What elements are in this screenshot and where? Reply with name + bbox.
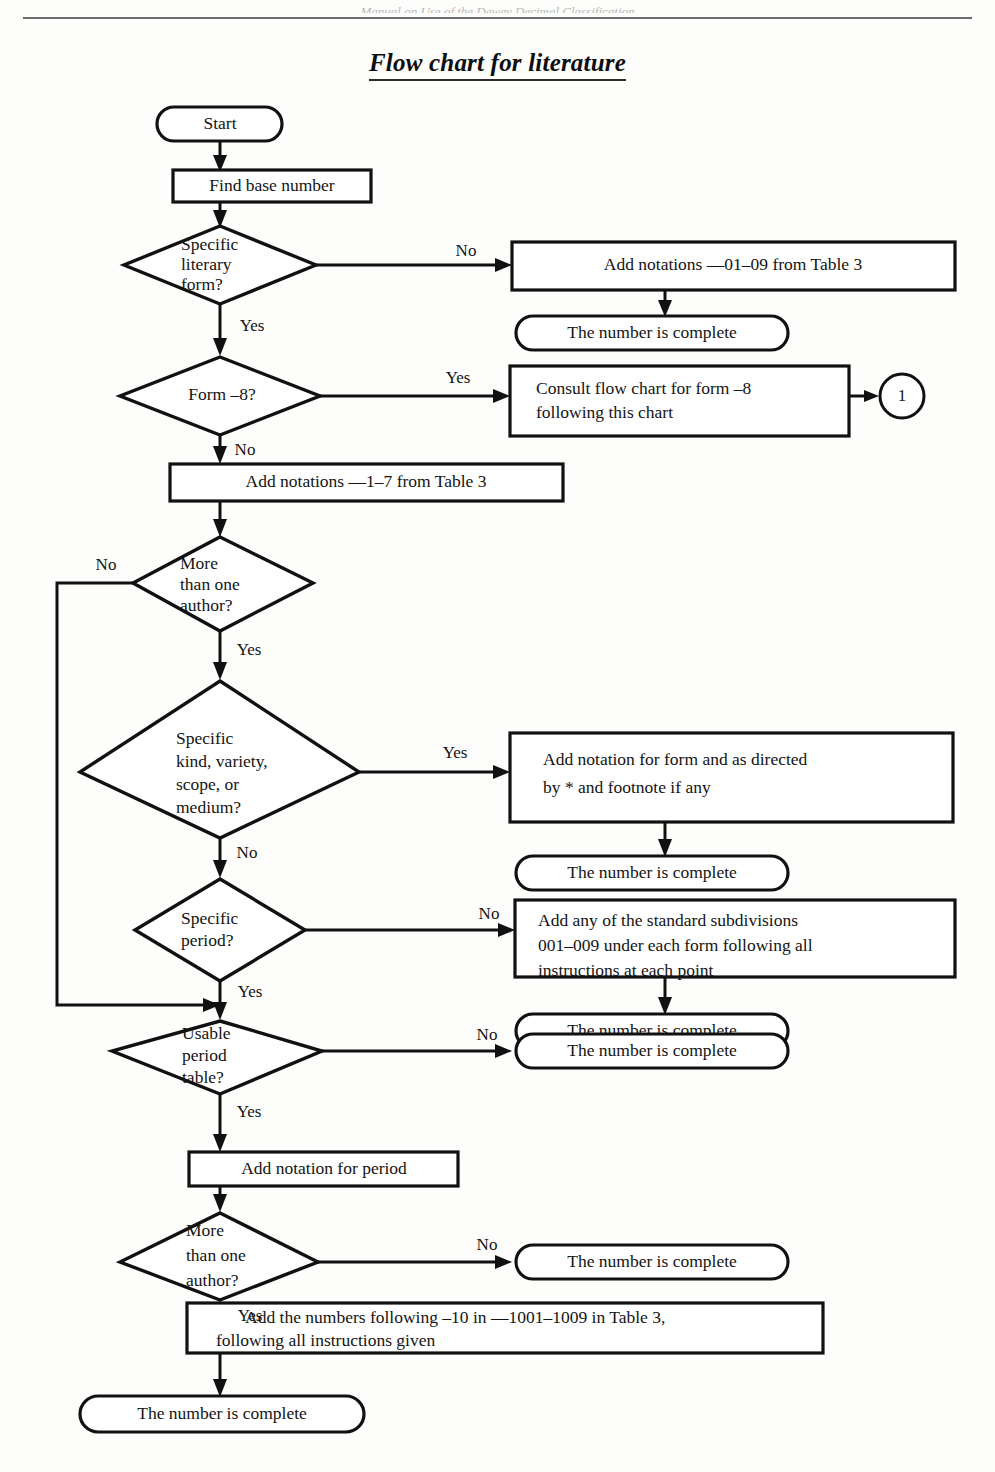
edge-consult-to-connector1 (849, 390, 879, 402)
node-connector-1[interactable]: 1 (880, 374, 924, 418)
node-more-than-one-author-a-line2: than one (180, 574, 240, 594)
node-more-than-one-author-b-line1: More (186, 1220, 224, 1240)
node-usable-period-table[interactable]: Usable period table? (112, 1021, 322, 1094)
node-specific-kind-line1: Specific (176, 728, 234, 748)
edge-authorsA-yes (213, 632, 227, 680)
edge-addform-to-complete2 (658, 822, 672, 857)
node-more-than-one-author-b[interactable]: More than one author? (120, 1213, 318, 1300)
node-add-notation-form-line1: Add notation for form and as directed (543, 749, 808, 769)
edge-label-period-no: No (479, 904, 500, 923)
node-add-std-subdiv-line3: instructions at each point (538, 960, 714, 980)
node-consult-flow-chart-form-8[interactable]: Consult flow chart for form –8 following… (510, 366, 849, 436)
node-specific-kind-line4: medium? (176, 797, 241, 817)
node-add-standard-subdivisions[interactable]: Add any of the standard subdivisions 001… (515, 900, 955, 980)
node-add-notations-01-09[interactable]: Add notations —01–09 from Table 3 (512, 242, 955, 290)
node-add-numbers-line1: Add the numbers following –10 in —1001–1… (245, 1307, 665, 1327)
edge-authorsB-no (318, 1255, 512, 1269)
node-more-than-one-author-b-line2: than one (186, 1245, 246, 1265)
edge-usable-yes (213, 1094, 227, 1152)
edge-label-form8-no: No (235, 440, 256, 459)
node-add-std-subdiv-line1: Add any of the standard subdivisions (538, 910, 798, 930)
flowchart-canvas: Start Find base number Specific literary… (0, 0, 995, 1472)
node-form-8-label: Form –8? (188, 384, 256, 404)
edge-label-litform-yes: Yes (240, 316, 265, 335)
edge-label-authorsB-no: No (477, 1235, 498, 1254)
edge-label-authorsA-yes: Yes (237, 640, 262, 659)
edge-form8-yes (320, 389, 510, 403)
edge-label-authorsB-yes: Yes (238, 1306, 263, 1325)
node-the-number-is-complete-6-label: The number is complete (137, 1403, 307, 1423)
node-specific-literary-form-line3: form? (181, 274, 223, 294)
node-form-8[interactable]: Form –8? (120, 357, 320, 435)
edge-label-form8-yes: Yes (446, 368, 471, 387)
node-add-notations-01-09-label: Add notations —01–09 from Table 3 (604, 254, 863, 274)
node-usable-period-table-line3: table? (182, 1067, 224, 1087)
node-more-than-one-author-a[interactable]: More than one author? (133, 537, 313, 631)
edge-findbase-to-litform (213, 200, 227, 228)
node-find-base-number-label: Find base number (209, 175, 335, 195)
node-the-number-is-complete-5[interactable]: The number is complete (516, 1245, 788, 1279)
node-usable-period-table-line1: Usable (182, 1023, 231, 1043)
node-specific-period[interactable]: Specific period? (135, 879, 305, 981)
edge-start-to-findbase (213, 139, 227, 172)
node-add-std-subdiv-line2: 001–009 under each form following all (538, 935, 813, 955)
node-the-number-is-complete-2[interactable]: The number is complete (516, 856, 788, 890)
edge-period-no (305, 923, 515, 937)
node-specific-period-line1: Specific (181, 908, 239, 928)
node-the-number-is-complete-6[interactable]: The number is complete (80, 1396, 364, 1432)
node-the-number-is-complete-5-label: The number is complete (567, 1251, 737, 1271)
node-specific-kind-variety-scope-medium[interactable]: Specific kind, variety, scope, or medium… (80, 681, 359, 838)
edge-label-litform-no: No (456, 241, 477, 260)
node-specific-literary-form[interactable]: Specific literary form? (124, 226, 316, 304)
edge-add0109-to-complete1 (658, 290, 672, 317)
node-the-number-is-complete-4-label: The number is complete (567, 1040, 737, 1060)
node-specific-literary-form-line1: Specific (181, 234, 239, 254)
edge-add17-to-authorsA (213, 500, 227, 537)
node-the-number-is-complete-1-label: The number is complete (567, 322, 737, 342)
node-add-notations-1-7[interactable]: Add notations —1–7 from Table 3 (170, 464, 563, 501)
node-the-number-is-complete-1[interactable]: The number is complete (516, 316, 788, 350)
node-specific-kind-line2: kind, variety, (176, 751, 268, 771)
node-connector-1-label: 1 (898, 386, 907, 405)
node-specific-period-line2: period? (181, 930, 234, 950)
node-add-notation-form-line2: by * and footnote if any (543, 777, 711, 797)
node-more-than-one-author-b-line3: author? (186, 1270, 239, 1290)
node-add-notation-for-period[interactable]: Add notation for period (189, 1152, 458, 1186)
node-more-than-one-author-a-line1: More (180, 553, 218, 573)
node-find-base-number[interactable]: Find base number (173, 170, 371, 202)
edge-add1001-to-complete6 (213, 1352, 227, 1397)
edge-stdsubdiv-to-complete3 (658, 976, 672, 1015)
edge-kind-no (213, 838, 227, 878)
node-add-notations-1-7-label: Add notations —1–7 from Table 3 (246, 471, 487, 491)
node-usable-period-table-line2: period (182, 1045, 227, 1065)
edge-label-usable-yes: Yes (237, 1102, 262, 1121)
edge-form8-no (213, 434, 227, 464)
node-add-notation-form-directed[interactable]: Add notation for form and as directed by… (510, 733, 953, 822)
edge-usable-no (322, 1044, 512, 1058)
node-the-number-is-complete-2-label: The number is complete (567, 862, 737, 882)
edge-label-period-yes: Yes (238, 982, 263, 1001)
node-start-label: Start (203, 113, 236, 133)
node-add-numbers-following-10[interactable]: Add the numbers following –10 in —1001–1… (187, 1303, 823, 1353)
node-consult-flow-chart-form-8-line2: following this chart (536, 402, 673, 422)
edge-label-authorsA-no: No (96, 555, 117, 574)
edge-label-usable-no: No (477, 1025, 498, 1044)
node-specific-kind-line3: scope, or (176, 774, 239, 794)
node-start[interactable]: Start (157, 107, 282, 141)
flowchart-page: Manual on Use of the Dewey Decimal Class… (0, 0, 995, 1472)
edge-litform-yes (213, 303, 227, 356)
node-add-numbers-line2: following all instructions given (216, 1330, 435, 1350)
node-specific-literary-form-line2: literary (181, 254, 232, 274)
edge-kind-yes (359, 765, 510, 779)
node-the-number-is-complete-4[interactable]: The number is complete (516, 1034, 788, 1068)
edge-label-kind-yes: Yes (443, 743, 468, 762)
node-more-than-one-author-a-line3: author? (180, 595, 233, 615)
edge-litform-no (316, 258, 512, 272)
edge-label-kind-no: No (237, 843, 258, 862)
edge-addperiod-to-authorsB (213, 1185, 227, 1212)
node-consult-flow-chart-form-8-line1: Consult flow chart for form –8 (536, 378, 752, 398)
node-add-notation-for-period-label: Add notation for period (241, 1158, 407, 1178)
